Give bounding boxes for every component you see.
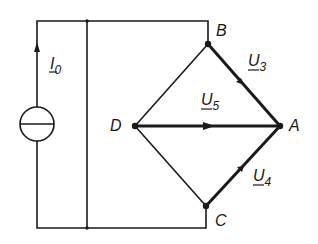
node-a-label: A (288, 117, 300, 134)
node-d-label: D (110, 117, 122, 134)
current-arrow-icon (34, 42, 40, 52)
voltage-u5-label: U5 (201, 91, 220, 113)
u5-arrow-icon (203, 122, 215, 130)
bridge-circuit-diagram: I0 B D A C U3 U5 U4 (0, 0, 318, 244)
node-b-label: B (216, 22, 227, 39)
voltage-u4-label: U4 (253, 167, 272, 189)
node-c-label: C (215, 212, 227, 229)
current-source-icon (20, 107, 54, 141)
source-current-label: I0 (50, 55, 61, 77)
voltage-u3-label: U3 (248, 52, 267, 74)
